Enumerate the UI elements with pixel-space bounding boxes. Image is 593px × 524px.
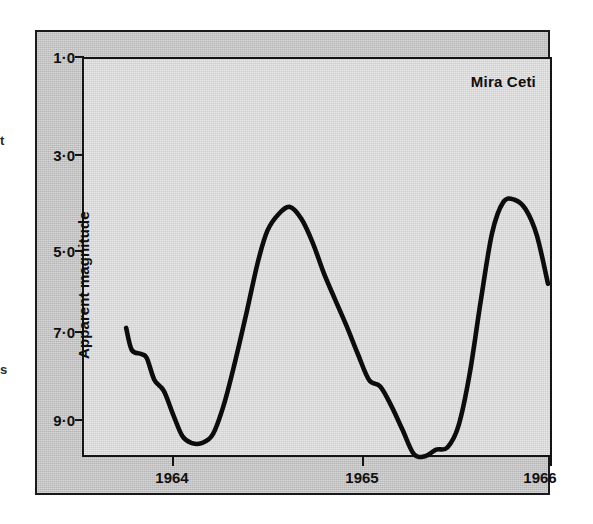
plot-area: Mira Ceti Apparent magnitude: [82, 57, 552, 457]
y-tick-label-2: 3·0: [53, 147, 75, 164]
light-curve-line: [126, 198, 548, 457]
x-tick-label-1966: 1966: [523, 469, 556, 486]
x-tick-label-1965: 1965: [345, 469, 378, 486]
y-axis: 1·0 3·0 5·0 7·0 9·0: [37, 32, 75, 497]
x-tick-mark-1964: [172, 457, 174, 466]
y-tick-label-4: 7·0: [53, 324, 75, 341]
figure-panel: 1·0 3·0 5·0 7·0 9·0 1964 1965 1966 Mira …: [35, 30, 550, 495]
x-tick-mark-1965: [362, 457, 364, 466]
x-tick-label-1964: 1964: [155, 469, 188, 486]
y-tick-label-1: 1·0: [53, 49, 75, 66]
light-curve-svg: [84, 59, 550, 455]
x-tick-mark-1966: [550, 457, 552, 466]
margin-text-fragment-top: t: [0, 133, 7, 148]
y-tick-label-3: 5·0: [53, 243, 75, 260]
y-tick-label-5: 9·0: [53, 412, 75, 429]
margin-text-fragment-bottom: s: [0, 362, 7, 377]
y-axis-title: Apparent magnitude: [75, 211, 92, 359]
